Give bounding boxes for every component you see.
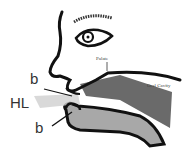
hl-label: HL	[10, 95, 29, 110]
eyebrow	[74, 16, 112, 22]
oral-cavity-label: Oral Cavity	[147, 83, 170, 88]
b-lower-label: b	[35, 120, 43, 135]
pupil	[87, 36, 90, 39]
head-profile-diagram	[0, 0, 185, 152]
palate-label: Palate	[96, 56, 108, 61]
b-upper-label: b	[30, 71, 38, 86]
